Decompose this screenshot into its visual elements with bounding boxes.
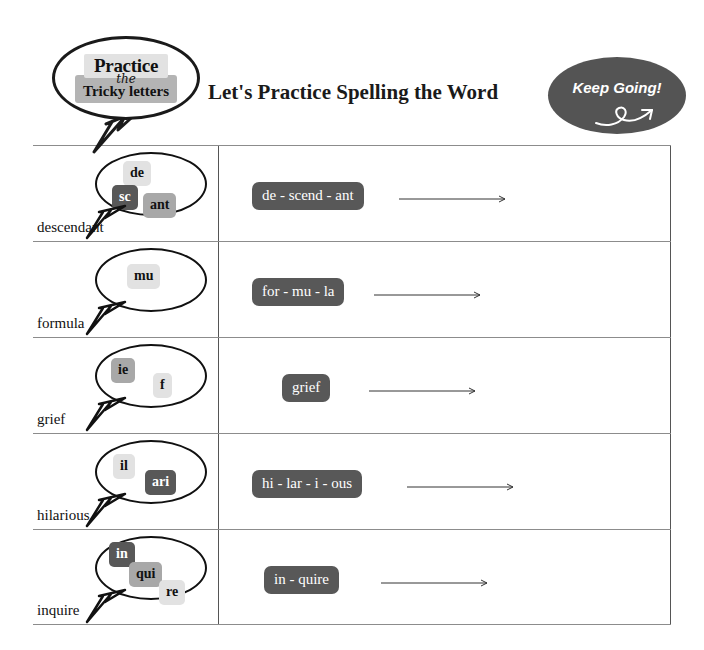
practice-tricky-letters-logo: Practice Tricky letters the bbox=[52, 36, 200, 120]
logo-connector-the: the bbox=[116, 72, 136, 86]
word-label: descendant bbox=[37, 219, 104, 236]
tricky-letter-chip[interactable]: il bbox=[113, 454, 135, 479]
syllable-answer-chip[interactable]: grief bbox=[282, 374, 330, 402]
speech-bubble-tail bbox=[85, 588, 133, 624]
word-cell: descantdescendant bbox=[33, 146, 218, 241]
word-label: inquire bbox=[37, 602, 80, 619]
word-cell: ilarihilarious bbox=[33, 434, 218, 529]
tricky-letter-chip[interactable]: ant bbox=[143, 193, 176, 218]
page-title: Let's Practice Spelling the Word bbox=[208, 80, 498, 105]
tricky-letter-chip[interactable]: de bbox=[123, 161, 151, 186]
tricky-letter-chip[interactable]: re bbox=[159, 580, 185, 605]
speech-bubble-tail bbox=[85, 300, 133, 336]
speech-bubble-tail bbox=[85, 396, 133, 432]
worksheet-page: Practice Tricky letters the Let's Practi… bbox=[0, 0, 704, 650]
word-cell: iefgrief bbox=[33, 338, 218, 433]
tricky-letter-chip[interactable]: ie bbox=[111, 358, 135, 383]
practice-table: descantdescendantde - scend - antmuformu… bbox=[33, 145, 671, 626]
word-cell: inquireinquire bbox=[33, 530, 218, 624]
tricky-letter-chip[interactable]: ari bbox=[145, 470, 176, 495]
keep-going-label: Keep Going! bbox=[548, 79, 686, 96]
table-row: iefgriefgrief bbox=[33, 337, 671, 433]
word-label: grief bbox=[37, 411, 65, 428]
answer-cell: for - mu - la bbox=[218, 242, 671, 337]
syllable-answer-chip[interactable]: for - mu - la bbox=[252, 278, 344, 306]
speech-bubble-tail bbox=[85, 492, 133, 528]
syllable-answer-chip[interactable]: de - scend - ant bbox=[252, 182, 364, 210]
table-row: muformulafor - mu - la bbox=[33, 241, 671, 337]
curly-arrow-icon bbox=[594, 97, 662, 129]
tricky-letter-chip[interactable]: f bbox=[153, 373, 172, 398]
tricky-letter-chip[interactable]: qui bbox=[129, 562, 162, 587]
syllable-answer-chip[interactable]: hi - lar - i - ous bbox=[252, 470, 362, 498]
table-row: ilarihilarioushi - lar - i - ous bbox=[33, 433, 671, 529]
arrow-icon bbox=[399, 194, 511, 204]
arrow-icon bbox=[381, 578, 493, 588]
word-label: hilarious bbox=[37, 507, 90, 524]
word-cell: muformula bbox=[33, 242, 218, 337]
answer-cell: grief bbox=[218, 338, 671, 433]
answer-cell: in - quire bbox=[218, 530, 671, 624]
table-row: inquireinquirein - quire bbox=[33, 529, 671, 625]
arrow-icon bbox=[369, 386, 481, 396]
keep-going-badge: Keep Going! bbox=[548, 57, 686, 134]
answer-cell: hi - lar - i - ous bbox=[218, 434, 671, 529]
table-row: descantdescendantde - scend - ant bbox=[33, 145, 671, 241]
answer-cell: de - scend - ant bbox=[218, 146, 671, 241]
syllable-answer-chip[interactable]: in - quire bbox=[264, 566, 339, 594]
arrow-icon bbox=[374, 290, 486, 300]
arrow-icon bbox=[407, 482, 519, 492]
tricky-letter-chip[interactable]: mu bbox=[127, 264, 160, 289]
word-label: formula bbox=[37, 315, 84, 332]
worksheet-header: Practice Tricky letters the Let's Practi… bbox=[0, 0, 704, 145]
